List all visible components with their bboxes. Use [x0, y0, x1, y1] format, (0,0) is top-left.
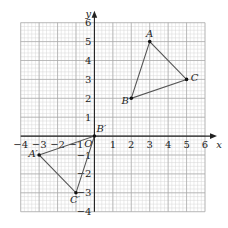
tick-labels: xyO−4−3−2−1123456654321−1−2−3−4: [13, 8, 222, 218]
x-tick-label: 1: [110, 139, 116, 150]
grid-major-lines: [21, 23, 205, 212]
coordinate-plane: xyO−4−3−2−1123456654321−1−2−3−4 ABC A′B′…: [0, 0, 228, 228]
y-tick-label: 5: [85, 36, 91, 47]
vertex-label: A: [145, 28, 153, 39]
x-axis-label: x: [216, 139, 222, 150]
y-tick-label: −4: [77, 206, 92, 217]
x-tick-label: 4: [165, 139, 171, 150]
y-tick-label: 2: [85, 93, 91, 104]
vertex-label: A′: [27, 148, 38, 159]
y-tick-label: −2: [77, 168, 92, 179]
vertex-label: B: [121, 95, 129, 106]
y-tick-label: 4: [85, 55, 91, 66]
vertex-label: C′: [70, 194, 81, 205]
x-tick-label: 2: [128, 139, 134, 150]
x-tick-label: 3: [147, 139, 153, 150]
y-tick-label: 1: [85, 112, 91, 123]
vertex-point: [129, 97, 133, 101]
vertex-point: [148, 40, 152, 44]
y-tick-label: 6: [85, 17, 91, 28]
vertex-point: [185, 78, 189, 82]
vertex-label: C: [191, 72, 199, 83]
x-tick-label: 6: [202, 139, 208, 150]
vertex-point: [93, 134, 97, 138]
x-axis-arrow-icon: [210, 133, 217, 139]
x-tick-label: 5: [183, 139, 189, 150]
y-tick-label: 3: [85, 74, 91, 85]
y-axis-arrow-icon: [92, 11, 98, 18]
vertex-label: B′: [96, 123, 107, 134]
x-tick-label: −4: [13, 139, 28, 150]
